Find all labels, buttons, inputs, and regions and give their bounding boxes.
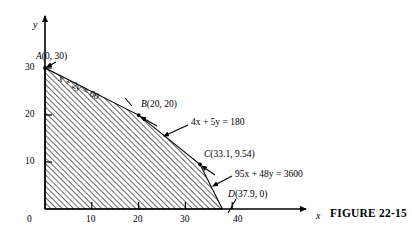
x-tick-label-40: 40 [233,215,243,225]
origin-tick-label: 0 [27,215,32,225]
point-D-coords: (37.9, 0) [235,189,267,199]
figure-container: y x 0 10 20 30 10 20 30 40 A(0, 30) B(20… [0,0,412,245]
leader-A [47,62,56,67]
x-tick-label-10: 10 [86,215,96,225]
leader-line1 [125,98,132,106]
point-C-coords: (33.1, 9.54) [210,149,254,159]
point-label-B: B(20, 20) [141,100,177,110]
y-axis-label: y [33,20,37,30]
x-axis-label: x [316,211,320,221]
point-A-coords: (0, 30) [42,51,67,61]
y-tick-label-20: 20 [25,110,35,120]
constraint-line2-text: 4x + 5y = 180 [191,117,244,127]
leader-line3 [213,176,232,186]
constraint-label-line2: 4x + 5y = 180 [191,118,244,128]
point-B-coords: (20, 20) [147,99,177,109]
vertex-A [43,66,47,70]
point-label-C: C(33.1, 9.54) [204,150,255,160]
y-tick-label-10: 10 [25,157,35,167]
leader-line2 [164,125,188,136]
figure-caption: FIGURE 22-15 [330,207,407,219]
y-tick-label-30: 30 [25,63,35,73]
vertex-B [137,113,141,117]
constraint-label-line3: 95x + 48y = 3600 [235,170,303,180]
point-label-A: A(0, 30) [36,52,67,62]
leader-D [228,199,236,213]
vertex-C [198,162,202,166]
constraint-line3-text: 95x + 48y = 3600 [235,169,303,179]
x-tick-label-20: 20 [133,215,143,225]
point-label-D: D(37.9, 0) [228,190,267,200]
x-tick-label-30: 30 [180,215,190,225]
